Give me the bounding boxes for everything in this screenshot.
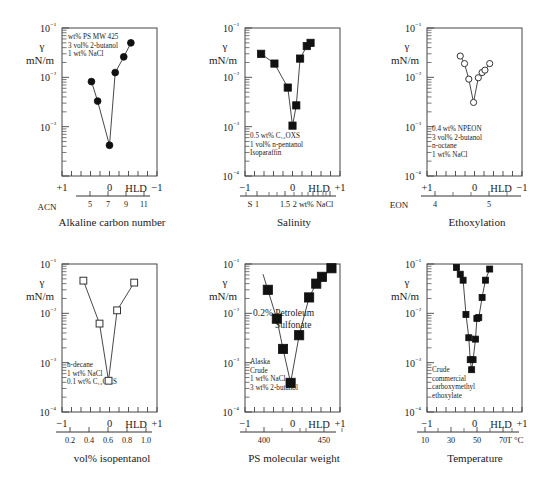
data-point-marker (106, 142, 113, 149)
x-tick-label: −1 (421, 418, 432, 429)
secondary-axis-name: ACN (37, 202, 57, 212)
data-point-marker (476, 315, 482, 321)
data-point-marker (482, 277, 488, 283)
data-point-marker (457, 53, 463, 59)
y-axis-title-gamma: γ (39, 40, 45, 52)
data-point-marker (80, 277, 87, 284)
secondary-axis-tick-label: 400 (258, 436, 270, 445)
data-point-marker (272, 314, 281, 323)
data-point-marker (487, 266, 493, 272)
panel-caption: Temperature (447, 452, 503, 464)
x-tick-label: 0 (290, 182, 295, 193)
panel-annotation: 3 vol% 2-butanol (68, 42, 118, 50)
y-tick-label: 10⁻³ (40, 121, 56, 133)
data-point-marker (460, 277, 466, 283)
plot-frame (62, 264, 157, 412)
panel-annotation: Crude (432, 366, 450, 374)
data-point-marker (127, 39, 134, 46)
data-point-marker (453, 264, 459, 270)
y-axis-title-units: mN/m (26, 54, 55, 66)
y-axis-title-gamma: γ (404, 40, 410, 52)
hld-axis-label: HLD (308, 183, 330, 194)
data-point-marker (479, 294, 485, 300)
y-tick-label: 10⁻¹ (405, 22, 421, 34)
panel-annotation: 1 wt% NaCl (68, 50, 104, 58)
panel-annotation: carboxymethyl (432, 383, 475, 391)
data-point-marker (470, 99, 476, 105)
y-tick-label: 10⁻⁴ (223, 170, 240, 182)
secondary-axis-tick-label: 5 (487, 200, 491, 209)
y-axis-title-units: mN/m (26, 290, 55, 302)
data-point-marker (293, 102, 300, 109)
secondary-axis-tick-label: 5 (88, 200, 92, 209)
chart-panel-1: 10⁻¹10⁻²10⁻³+10−1HLDγmN/m57911ACNAlkalin… (0, 0, 184, 240)
x-tick-label: −1 (239, 418, 250, 429)
data-point-marker (114, 307, 121, 314)
data-point-marker (297, 55, 304, 62)
x-tick-label: −1 (239, 182, 250, 193)
secondary-axis-tick-label: 450 (318, 436, 330, 445)
data-point-marker (286, 378, 295, 387)
y-tick-label: 10⁻⁴ (405, 170, 422, 182)
data-point-marker (317, 272, 326, 281)
panel-annotation: ethoxylate (432, 392, 462, 400)
y-tick-label: 10⁻² (40, 307, 56, 319)
y-axis-title-gamma: γ (222, 40, 228, 52)
y-tick-label: 10⁻¹ (40, 22, 56, 34)
data-point-marker (470, 357, 476, 363)
data-point-marker (295, 331, 304, 340)
secondary-axis-tick-label: 0.8 (122, 436, 132, 445)
figure-panel-grid: 10⁻¹10⁻²10⁻³+10−1HLDγmN/m57911ACNAlkalin… (0, 0, 552, 479)
x-tick-label: −1 (516, 182, 527, 193)
panel-caption: Alkaline carbon number (59, 216, 166, 228)
secondary-axis-name: EON (390, 200, 409, 210)
secondary-axis-tick-label: 10 (421, 436, 429, 445)
data-point-marker (472, 336, 478, 342)
x-tick-label: +1 (334, 418, 345, 429)
data-point-marker (258, 50, 265, 57)
y-tick-label: 10⁻⁴ (405, 406, 422, 418)
x-tick-label: 0 (472, 418, 477, 429)
data-point-marker (278, 344, 287, 353)
secondary-axis-tick-label: 9 (124, 200, 128, 209)
y-tick-label: 10⁻² (223, 71, 239, 83)
y-axis-title-units: mN/m (209, 54, 238, 66)
panel-annotation: Alaska (250, 358, 271, 366)
y-axis-title-gamma: γ (39, 276, 45, 288)
y-tick-label: 10⁻² (40, 71, 56, 83)
secondary-axis-tick-label: 1 (255, 200, 259, 209)
x-tick-label: 0 (472, 182, 477, 193)
chart-panel-2: 10⁻¹10⁻²10⁻³10⁻⁴−10+1HLDγmN/m11.52 wt% N… (184, 0, 369, 240)
secondary-axis-tick-label: 1.0 (141, 436, 151, 445)
panel-annotation: 3 vol% 2-butanol (432, 134, 482, 142)
secondary-axis-tick-label: 0.6 (103, 436, 113, 445)
secondary-axis-name: S (247, 199, 252, 209)
data-point-marker (263, 285, 272, 294)
x-tick-label: +1 (56, 182, 67, 193)
y-tick-label: 10⁻³ (405, 121, 421, 133)
x-tick-label: +1 (516, 418, 527, 429)
panel-annotation: Isoparaffin (250, 149, 282, 157)
y-tick-label: 10⁻¹ (40, 258, 56, 270)
panel-annotation: 0.4 wt% NPEON (432, 125, 483, 133)
data-point-marker (466, 335, 472, 341)
data-point-marker (96, 320, 103, 327)
y-axis-title-units: mN/m (391, 54, 420, 66)
y-tick-label: 10⁻¹ (223, 22, 239, 34)
y-axis-title-units: mN/m (209, 290, 238, 302)
data-point-marker (112, 69, 119, 76)
hld-axis-label: HLD (308, 419, 330, 430)
hld-axis-label: HLD (125, 419, 147, 430)
y-tick-label: 10⁻³ (405, 357, 421, 369)
y-tick-label: 10⁻² (405, 307, 421, 319)
panel-caption: Ethoxylation (449, 216, 506, 228)
x-tick-label: +1 (151, 418, 162, 429)
hld-axis-label: HLD (490, 183, 512, 194)
data-point-marker (482, 67, 488, 73)
data-point-marker (466, 76, 472, 82)
chart-panel-6: 10⁻¹10⁻²10⁻³10⁻⁴−10+1HLDγmN/m10305070T °… (369, 240, 552, 479)
data-point-marker (120, 53, 127, 60)
data-point-marker (131, 279, 138, 286)
data-point-marker (461, 60, 467, 66)
secondary-axis-tick-label: 1.5 (280, 200, 290, 209)
